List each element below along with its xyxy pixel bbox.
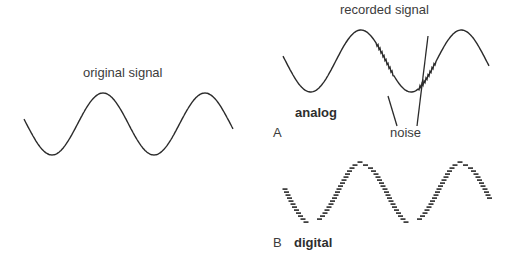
digital-label: digital bbox=[294, 236, 332, 250]
digital-sample-dash bbox=[383, 188, 388, 190]
digital-sample-dash bbox=[376, 176, 381, 178]
digital-sample-dash bbox=[340, 182, 345, 184]
digital-sample-dash bbox=[440, 182, 445, 184]
digital-sample-dash bbox=[304, 221, 309, 223]
digital-sample-dash bbox=[334, 194, 339, 196]
digital-sample-dash bbox=[347, 170, 352, 172]
noise-pointer-line bbox=[417, 36, 428, 126]
digital-sample-dash bbox=[289, 200, 294, 202]
digital-sample-dash bbox=[327, 206, 332, 208]
digital-sample-dash bbox=[463, 164, 468, 166]
digital-sample-dash bbox=[374, 173, 379, 175]
digital-sample-dash bbox=[487, 197, 492, 199]
digital-sample-dash bbox=[317, 218, 322, 220]
digital-sample-dash bbox=[387, 197, 392, 199]
digital-sample-dash bbox=[342, 179, 347, 181]
digital-signal-dashes bbox=[283, 161, 493, 223]
noise-pointer-lines bbox=[388, 36, 428, 126]
digital-sample-dash bbox=[423, 212, 428, 214]
digital-sample-dash bbox=[320, 215, 325, 217]
digital-sample-dash bbox=[468, 167, 473, 169]
digital-sample-dash bbox=[420, 215, 425, 217]
digital-sample-dash bbox=[484, 191, 489, 193]
digital-sample-dash bbox=[396, 212, 401, 214]
digital-sample-dash bbox=[284, 191, 289, 193]
digital-sample-dash bbox=[386, 194, 391, 196]
digital-sample-dash bbox=[401, 218, 406, 220]
digital-sample-dash bbox=[338, 185, 343, 187]
signal-diagram bbox=[0, 0, 515, 270]
original-signal-label: original signal bbox=[83, 66, 163, 80]
digital-sample-dash bbox=[358, 161, 363, 163]
digital-sample-dash bbox=[432, 197, 437, 199]
digital-sample-dash bbox=[417, 218, 422, 220]
digital-sample-dash bbox=[344, 176, 349, 178]
noise-pointer-line bbox=[388, 96, 397, 126]
digital-sample-dash bbox=[335, 191, 340, 193]
digital-sample-dash bbox=[389, 200, 394, 202]
digital-sample-dash bbox=[363, 164, 368, 166]
recorded-signal-label: recorded signal bbox=[340, 3, 429, 17]
digital-sample-dash bbox=[391, 203, 396, 205]
recorded-analog-signal-wave bbox=[283, 30, 489, 92]
digital-sample-dash bbox=[287, 197, 292, 199]
digital-sample-dash bbox=[298, 215, 303, 217]
digital-sample-dash bbox=[294, 209, 299, 211]
digital-sample-dash bbox=[444, 176, 449, 178]
digital-sample-dash bbox=[483, 188, 488, 190]
digital-sample-dash bbox=[404, 221, 409, 223]
digital-sample-dash bbox=[330, 200, 335, 202]
digital-sample-dash bbox=[379, 182, 384, 184]
digital-sample-dash bbox=[392, 206, 397, 208]
digital-sample-dash bbox=[474, 173, 479, 175]
original-signal-wave bbox=[24, 93, 233, 155]
digital-sample-dash bbox=[434, 194, 439, 196]
digital-sample-dash bbox=[481, 185, 486, 187]
digital-sample-dash bbox=[447, 170, 452, 172]
digital-sample-dash bbox=[337, 188, 342, 190]
digital-sample-dash bbox=[323, 212, 328, 214]
digital-sample-dash bbox=[453, 164, 458, 166]
digital-sample-dash bbox=[384, 191, 389, 193]
digital-sample-dash bbox=[458, 161, 463, 163]
digital-sample-dash bbox=[450, 167, 455, 169]
digital-sample-dash bbox=[332, 197, 337, 199]
digital-sample-dash bbox=[325, 209, 330, 211]
digital-sample-dash bbox=[283, 188, 288, 190]
digital-sample-dash bbox=[425, 209, 430, 211]
digital-sample-dash bbox=[368, 167, 373, 169]
digital-sample-dash bbox=[353, 164, 358, 166]
digital-sample-dash bbox=[292, 206, 297, 208]
digital-sample-dash bbox=[479, 182, 484, 184]
digital-sample-dash bbox=[286, 194, 291, 196]
digital-sample-dash bbox=[301, 218, 306, 220]
panel-b-label: B bbox=[273, 236, 282, 250]
digital-sample-dash bbox=[437, 188, 442, 190]
digital-sample-dash bbox=[442, 179, 447, 181]
digital-sample-dash bbox=[476, 176, 481, 178]
digital-sample-dash bbox=[429, 203, 434, 205]
digital-sample-dash bbox=[438, 185, 443, 187]
digital-sample-dash bbox=[394, 209, 399, 211]
digital-sample-dash bbox=[345, 173, 350, 175]
digital-sample-dash bbox=[430, 200, 435, 202]
noise-label: noise bbox=[390, 126, 421, 140]
digital-sample-dash bbox=[296, 212, 301, 214]
digital-sample-dash bbox=[445, 173, 450, 175]
digital-sample-dash bbox=[471, 170, 476, 172]
digital-sample-dash bbox=[398, 215, 403, 217]
digital-sample-dash bbox=[329, 203, 334, 205]
digital-sample-dash bbox=[381, 185, 386, 187]
digital-sample-dash bbox=[427, 206, 432, 208]
digital-sample-dash bbox=[486, 194, 491, 196]
panel-a-label: A bbox=[273, 126, 282, 140]
analog-label: analog bbox=[295, 106, 337, 120]
digital-sample-dash bbox=[371, 170, 376, 172]
digital-sample-dash bbox=[477, 179, 482, 181]
digital-sample-dash bbox=[377, 179, 382, 181]
digital-sample-dash bbox=[350, 167, 355, 169]
digital-sample-dash bbox=[291, 203, 296, 205]
digital-sample-dash bbox=[435, 191, 440, 193]
